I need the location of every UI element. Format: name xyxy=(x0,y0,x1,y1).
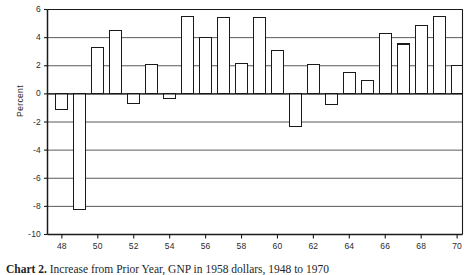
bar xyxy=(92,47,104,93)
bar xyxy=(236,64,248,94)
x-tick-label: 48 xyxy=(50,241,74,251)
y-tick-label: 4 xyxy=(11,32,41,42)
bar xyxy=(56,94,68,109)
y-tick-label: -6 xyxy=(11,173,41,183)
bar xyxy=(433,17,445,94)
y-tick-label: -10 xyxy=(11,229,41,239)
y-tick-label: 2 xyxy=(11,60,41,70)
bar xyxy=(379,33,391,93)
x-tick-label: 66 xyxy=(373,241,397,251)
bar xyxy=(218,18,230,94)
x-tick-label: 58 xyxy=(230,241,254,251)
bar xyxy=(289,94,301,127)
x-tick-label: 60 xyxy=(265,241,289,251)
bar xyxy=(361,81,373,94)
bar xyxy=(451,66,462,94)
bar xyxy=(164,94,176,99)
x-tick-label: 52 xyxy=(122,241,146,251)
x-tick-label: 62 xyxy=(301,241,325,251)
x-tick-label: 54 xyxy=(158,241,182,251)
bar xyxy=(415,26,427,94)
bar xyxy=(397,44,409,94)
x-tick-label: 64 xyxy=(337,241,361,251)
x-tick-label: 50 xyxy=(86,241,110,251)
x-tick-label: 56 xyxy=(194,241,218,251)
bar xyxy=(307,64,319,94)
y-tick-label: -2 xyxy=(11,117,41,127)
y-tick-label: -4 xyxy=(11,145,41,155)
caption-text: Increase from Prior Year, GNP in 1958 do… xyxy=(50,263,329,275)
bar xyxy=(128,94,140,104)
y-tick-label: -8 xyxy=(11,201,41,211)
y-tick-label: 0 xyxy=(11,88,41,98)
bar xyxy=(74,94,86,209)
bar xyxy=(110,31,122,94)
bar xyxy=(325,94,337,105)
bar xyxy=(253,18,265,94)
bar xyxy=(200,38,212,94)
bar xyxy=(146,64,158,94)
x-tick-label: 70 xyxy=(445,241,469,251)
x-tick-label: 68 xyxy=(409,241,433,251)
bar xyxy=(271,50,283,94)
caption-label: Chart 2. xyxy=(6,263,47,275)
figure-caption: Chart 2. Increase from Prior Year, GNP i… xyxy=(6,263,466,275)
bar xyxy=(343,72,355,94)
bar xyxy=(182,17,194,94)
y-tick-label: 6 xyxy=(11,4,41,14)
